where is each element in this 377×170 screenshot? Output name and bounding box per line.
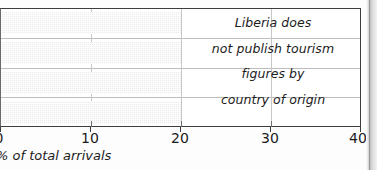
bar-3	[1, 72, 181, 94]
axis-tick-label-0: 0	[0, 130, 19, 146]
axis-tick-label-10: 10	[70, 130, 110, 146]
x-axis-title: % of total arrivals	[0, 148, 111, 163]
plot-area	[0, 8, 361, 127]
axis-tick-label-20: 20	[160, 130, 200, 146]
bar-2	[1, 42, 181, 64]
axis-tick-label-30: 30	[250, 130, 290, 146]
page-edge-artifact	[366, 0, 377, 170]
chart-figure: Liberia does not publish tourism figures…	[0, 0, 377, 170]
gridline-vertical	[181, 9, 182, 126]
bar-1	[1, 12, 181, 34]
page-edge-line	[369, 0, 370, 170]
gridline-vertical	[271, 9, 272, 126]
